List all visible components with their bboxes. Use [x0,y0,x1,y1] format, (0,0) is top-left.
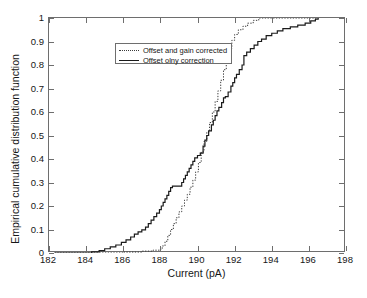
legend-item-offset-olny-correction: Offset olny correction [119,56,228,65]
y-axis-title: Empirical cumulative distribution functi… [8,0,22,298]
x-axis-tick-label: 188 [151,254,167,265]
y-axis-tick-right [339,112,344,113]
x-axis-tick-top [309,18,310,23]
y-axis-tick-right [339,183,344,184]
y-axis-tick-label: 0.9 [44,35,57,46]
y-axis-tick-label: 0.4 [44,153,57,164]
y-axis-tick-right [339,206,344,207]
y-axis-tick-right [339,136,344,137]
x-axis-tick [309,246,310,251]
x-axis-tick-top [346,18,347,23]
x-axis-tick-top [198,18,199,23]
x-axis-tick-label: 196 [300,254,316,265]
x-axis-tick-label: 194 [263,254,279,265]
x-axis-title: Current (pA) [48,267,345,279]
y-axis-tick-right [339,159,344,160]
y-axis-tick-label: 0.3 [44,176,57,187]
y-axis-tick-label: 0.7 [44,82,57,93]
x-axis-tick [123,246,124,251]
x-axis-tick [198,246,199,251]
legend-line-sample-dotted-icon [119,47,139,54]
y-axis-tick-right [339,65,344,66]
y-axis-tick-label: 0.8 [44,59,57,70]
x-axis-tick [346,246,347,251]
y-axis-tick-label: 0.1 [44,223,57,234]
x-axis-tick-label: 192 [226,254,242,265]
y-axis-tick-right [339,42,344,43]
x-axis-tick-top [235,18,236,23]
x-axis-tick-top [160,18,161,23]
legend-label: Offset and gain corrected [143,46,227,55]
x-axis-tick-label: 184 [77,254,93,265]
legend-item-offset-and-gain-corrected: Offset and gain corrected [119,46,228,55]
x-axis-tick [272,246,273,251]
x-axis-tick-label: 186 [114,254,130,265]
y-axis-tick-right [339,89,344,90]
x-axis-tick-label: 198 [337,254,353,265]
x-axis-tick-top [123,18,124,23]
x-axis-tick [235,246,236,251]
y-axis-tick-label: 0 [44,247,49,258]
y-axis-tick [49,18,54,19]
x-axis-tick-top [272,18,273,23]
x-axis-tick [86,246,87,251]
y-axis-tick-right [339,230,344,231]
y-axis-title-container: Empirical cumulative distribution functi… [8,0,22,298]
legend-box: Offset and gain corrected Offset olny co… [115,43,232,64]
y-axis-tick-label: 1 [44,12,49,23]
legend-line-sample-solid-icon [119,57,139,64]
legend-label: Offset olny correction [143,56,214,65]
ecdf-chart-figure: Empirical cumulative distribution functi… [0,0,367,298]
y-axis-tick-label: 0.6 [44,106,57,117]
y-axis-tick-label: 0.5 [44,129,57,140]
x-axis-tick-label: 190 [189,254,205,265]
y-axis-tick-label: 0.2 [44,200,57,211]
y-axis-tick-right [339,18,344,19]
x-axis-tick-top [86,18,87,23]
plot-area: Offset and gain corrected Offset olny co… [48,17,345,252]
x-axis-tick [160,246,161,251]
